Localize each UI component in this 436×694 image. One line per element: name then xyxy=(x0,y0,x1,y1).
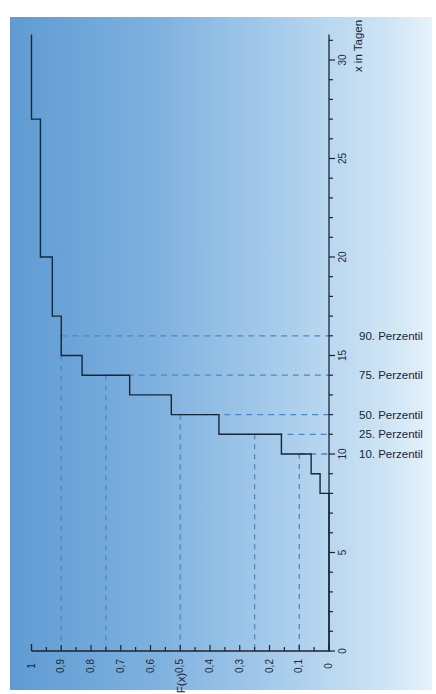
x-tick-label: 0 xyxy=(337,648,348,654)
x-tick-label: 15 xyxy=(337,350,348,362)
x-axis-days: 051015202530 xyxy=(329,34,348,653)
x-tick-label: 5 xyxy=(337,549,348,555)
x-tick-label: 20 xyxy=(337,251,348,263)
percentile-label: 25. Perzentil xyxy=(359,428,423,440)
x-tick-label: 10 xyxy=(337,448,348,460)
y-tick-label: 0 xyxy=(323,663,334,669)
y-tick-label: 0,5 xyxy=(174,659,185,673)
x-axis-title: x in Tagen xyxy=(352,20,364,72)
percentile-label: 90. Perzentil xyxy=(359,330,423,342)
ecdf-chart: 051015202530 00,10,20,30,40,50,60,70,80,… xyxy=(0,0,436,694)
y-tick-label: 0,8 xyxy=(85,659,96,673)
y-tick-label: 0,6 xyxy=(145,659,156,673)
percentile-label: 50. Perzentil xyxy=(359,409,423,421)
x-tick-label: 30 xyxy=(337,54,348,66)
percentile-label: 10. Perzentil xyxy=(359,448,423,460)
y-tick-label: 0,3 xyxy=(234,659,245,673)
y-tick-label: 0,4 xyxy=(204,659,215,673)
x-tick-label: 25 xyxy=(337,153,348,165)
percentile-label: 75. Perzentil xyxy=(359,369,423,381)
y-tick-label: 0,1 xyxy=(293,659,304,673)
y-tick-label: 0,9 xyxy=(55,659,66,673)
y-axis-fx: 00,10,20,30,40,50,60,70,80,91 xyxy=(26,644,335,673)
percentile-guides xyxy=(61,336,329,651)
percentile-labels: 10. Perzentil25. Perzentil50. Perzentil7… xyxy=(359,330,423,460)
y-axis-title: F(x) xyxy=(175,673,187,694)
y-tick-label: 0,7 xyxy=(115,659,126,673)
y-tick-label: 0,2 xyxy=(264,659,275,673)
y-tick-label: 1 xyxy=(26,663,37,669)
